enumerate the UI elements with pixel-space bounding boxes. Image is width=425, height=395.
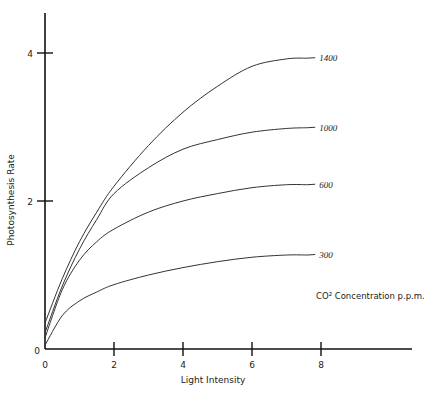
x-tick-label-6: 6 bbox=[249, 360, 255, 370]
x-tick-label-4: 4 bbox=[180, 360, 186, 370]
series-lines bbox=[45, 58, 315, 346]
y-tick-label-0: 0 bbox=[34, 346, 40, 356]
x-tick-label-0: 0 bbox=[42, 360, 48, 370]
series-label-600: 600 bbox=[319, 180, 333, 190]
series-label-300: 300 bbox=[318, 250, 333, 260]
y-tick-label-2: 2 bbox=[27, 197, 33, 207]
y-axis-title: Photosynthesis Rate bbox=[6, 154, 16, 246]
x-tick-label-8: 8 bbox=[318, 360, 324, 370]
photosynthesis-chart: 0246824 14001000600300 0 Light Intensity… bbox=[0, 0, 425, 395]
series-labels: 14001000600300 bbox=[318, 53, 338, 260]
line-co2-1400 bbox=[45, 58, 315, 323]
line-co2-300 bbox=[45, 255, 315, 346]
series-label-1400: 1400 bbox=[319, 53, 338, 63]
legend-title: CO² Concentration p.p.m. bbox=[316, 291, 425, 301]
y-tick-label-4: 4 bbox=[27, 49, 33, 59]
x-axis-title: Light Intensity bbox=[181, 375, 246, 385]
line-co2-600 bbox=[45, 184, 315, 338]
axes: 0246824 bbox=[27, 13, 412, 370]
x-tick-label-2: 2 bbox=[111, 360, 117, 370]
series-label-1000: 1000 bbox=[319, 123, 338, 133]
